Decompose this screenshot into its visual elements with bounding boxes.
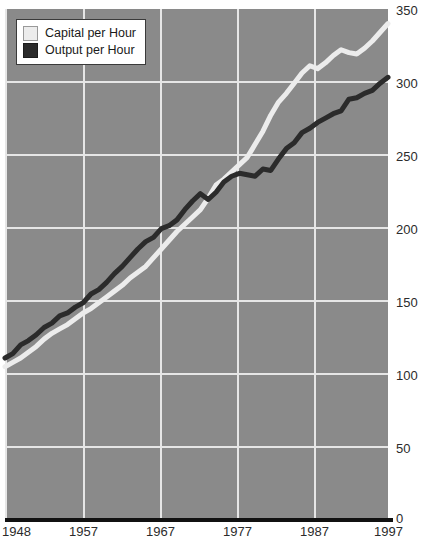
x-tick-1948: 1948 [2, 524, 31, 539]
chart-legend: Capital per Hour Output per Hour [16, 19, 146, 65]
x-axis-labels: 1948 1957 1967 1977 1987 1997 [0, 524, 421, 544]
series-line-output-per-hour [5, 77, 388, 358]
x-tick-1957: 1957 [69, 524, 98, 539]
legend-swatch-output-per-hour [23, 43, 38, 58]
x-tick-1997: 1997 [374, 524, 403, 539]
y-axis-labels: 350 300 250 200 150 100 50 0 [396, 0, 421, 544]
x-tick-1967: 1967 [146, 524, 175, 539]
y-tick-200: 200 [396, 223, 418, 236]
y-tick-250: 250 [396, 150, 418, 163]
x-tick-1987: 1987 [300, 524, 329, 539]
chart-root: 350 300 250 200 150 100 50 0 1948 1957 1… [0, 0, 421, 544]
legend-item-output-per-hour: Output per Hour [23, 42, 136, 59]
y-tick-50: 50 [396, 442, 410, 455]
legend-label-capital-per-hour: Capital per Hour [45, 27, 136, 40]
x-tick-1977: 1977 [223, 524, 252, 539]
legend-label-output-per-hour: Output per Hour [45, 44, 135, 57]
y-tick-100: 100 [396, 369, 418, 382]
y-tick-350: 350 [396, 4, 418, 17]
plot-area [5, 9, 388, 518]
legend-item-capital-per-hour: Capital per Hour [23, 25, 136, 42]
series-lines [5, 9, 388, 518]
y-tick-300: 300 [396, 77, 418, 90]
legend-swatch-capital-per-hour [23, 26, 38, 41]
x-axis-baseline [5, 518, 393, 522]
y-tick-150: 150 [396, 296, 418, 309]
